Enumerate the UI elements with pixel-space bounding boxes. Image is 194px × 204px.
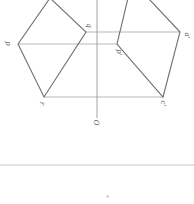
label-p-prime: p'	[115, 49, 122, 55]
label-r: r	[38, 102, 45, 105]
label-c-prime: c'	[159, 101, 166, 107]
bottom-mark: *	[102, 195, 109, 199]
label-q: q	[85, 23, 92, 27]
left-view-outline	[18, 0, 86, 97]
right-view-outline	[117, 0, 180, 97]
label-a: a'	[183, 32, 190, 38]
label-p: p	[4, 41, 11, 45]
label-origin: O	[92, 120, 99, 126]
